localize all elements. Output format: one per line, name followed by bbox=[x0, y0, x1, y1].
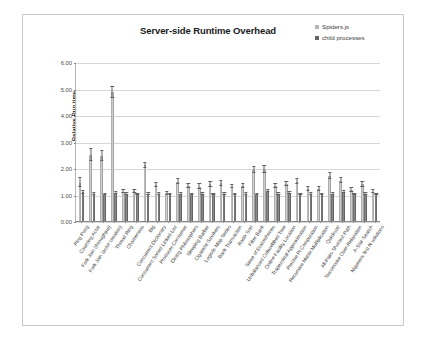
legend-item-series1: Spiders.js bbox=[315, 23, 399, 30]
bar-wrapper bbox=[331, 194, 334, 221]
plot-area: 0.001.002.003.004.005.006.00 bbox=[75, 63, 380, 222]
legend-item-series2: child processes bbox=[315, 34, 399, 41]
error-bar-cap bbox=[219, 185, 222, 186]
bar-group bbox=[87, 63, 98, 221]
error-bar-cap bbox=[309, 194, 312, 195]
error-bar-cap bbox=[125, 192, 128, 193]
error-bar-cap bbox=[298, 194, 301, 195]
bar-group bbox=[185, 63, 196, 221]
bar bbox=[114, 193, 117, 221]
bar-group bbox=[109, 63, 120, 221]
error-bar-cap bbox=[295, 183, 298, 184]
error-bar-cap bbox=[274, 183, 277, 184]
error-bar-cap bbox=[285, 181, 288, 182]
x-tick-mark bbox=[277, 221, 278, 223]
bar-wrapper bbox=[201, 194, 204, 221]
legend-swatch-series1 bbox=[315, 25, 319, 29]
error-bar-cap bbox=[222, 192, 225, 193]
error-bar-cap bbox=[350, 187, 353, 188]
bar-group bbox=[315, 63, 326, 221]
y-tick-label: 6.00 bbox=[61, 60, 72, 66]
bar-group bbox=[293, 63, 304, 221]
error-bar-cap bbox=[168, 194, 171, 195]
error-bar-cap bbox=[100, 150, 103, 151]
error-bar-cap bbox=[222, 194, 225, 195]
error-bar-cap bbox=[154, 186, 157, 187]
bar-group bbox=[76, 63, 87, 221]
bar-wrapper bbox=[245, 194, 248, 221]
bar bbox=[190, 195, 193, 222]
bar-wrapper bbox=[190, 195, 193, 222]
error-bar-cap bbox=[187, 183, 190, 184]
error-bar-cap bbox=[146, 194, 149, 195]
error-bar-cap bbox=[179, 192, 182, 193]
error-bar-cap bbox=[143, 162, 146, 163]
bar bbox=[321, 195, 324, 222]
chart-title: Server-side Runtime Overhead bbox=[83, 25, 333, 36]
error-bar-cap bbox=[241, 183, 244, 184]
error-bar-cap bbox=[201, 192, 204, 193]
bar bbox=[136, 195, 139, 222]
error-bar-cap bbox=[198, 183, 201, 184]
bar bbox=[255, 195, 258, 222]
error-bar-cap bbox=[244, 194, 247, 195]
bar-wrapper bbox=[103, 195, 106, 222]
x-tick-mark bbox=[125, 221, 126, 223]
error-bar-cap bbox=[111, 97, 114, 98]
error-bar-cap bbox=[154, 182, 157, 183]
error-bar-cap bbox=[277, 194, 280, 195]
error-bar-cap bbox=[339, 177, 342, 178]
bar-group bbox=[163, 63, 174, 221]
bar-wrapper bbox=[125, 194, 128, 221]
bar-group bbox=[282, 63, 293, 221]
x-tick-mark bbox=[190, 221, 191, 223]
error-bar-cap bbox=[328, 172, 331, 173]
bar bbox=[342, 192, 345, 221]
error-bar-cap bbox=[263, 172, 266, 173]
bar bbox=[266, 191, 269, 221]
x-tick-mark bbox=[179, 221, 180, 223]
error-bar-cap bbox=[212, 193, 215, 194]
bar bbox=[353, 195, 356, 222]
bar-group bbox=[369, 63, 380, 221]
error-bar-cap bbox=[78, 177, 81, 178]
bar-wrapper bbox=[234, 195, 237, 222]
bar-group bbox=[228, 63, 239, 221]
error-bar-cap bbox=[136, 193, 139, 194]
error-bar-cap bbox=[92, 192, 95, 193]
bar bbox=[103, 195, 106, 222]
error-bar-cap bbox=[350, 191, 353, 192]
error-bar-cap bbox=[103, 193, 106, 194]
error-bar-cap bbox=[208, 186, 211, 187]
bar-group bbox=[206, 63, 217, 221]
error-bar-cap bbox=[320, 193, 323, 194]
chart-screenshot: Server-side Runtime Overhead Spiders.js … bbox=[0, 0, 422, 338]
bar bbox=[169, 195, 172, 222]
error-bar-cap bbox=[285, 185, 288, 186]
error-bar-cap bbox=[361, 181, 364, 182]
error-bar-cap bbox=[331, 194, 334, 195]
error-bar-cap bbox=[190, 194, 193, 195]
bar-wrapper bbox=[255, 195, 258, 222]
bar-group bbox=[119, 63, 130, 221]
x-tick-mark bbox=[375, 221, 376, 223]
error-bar-cap bbox=[176, 183, 179, 184]
error-bar-cap bbox=[255, 193, 258, 194]
bar bbox=[288, 193, 291, 221]
bar-group bbox=[174, 63, 185, 221]
x-axis-labels: Ping PongCounting ActorFork Join (throug… bbox=[75, 224, 380, 338]
error-bar-cap bbox=[364, 194, 367, 195]
bar bbox=[179, 194, 182, 221]
error-bar-cap bbox=[165, 191, 168, 192]
y-tick-mark bbox=[74, 222, 76, 223]
chart-legend: Spiders.js child processes bbox=[315, 23, 399, 45]
chart-frame: Server-side Runtime Overhead Spiders.js … bbox=[22, 14, 404, 326]
error-bar-cap bbox=[288, 191, 291, 192]
error-bar-cap bbox=[277, 192, 280, 193]
x-tick-mark bbox=[353, 221, 354, 223]
x-tick-mark bbox=[266, 221, 267, 223]
bar bbox=[212, 195, 215, 222]
error-bar-cap bbox=[190, 193, 193, 194]
bar bbox=[125, 194, 128, 221]
error-bar-cap bbox=[233, 194, 236, 195]
